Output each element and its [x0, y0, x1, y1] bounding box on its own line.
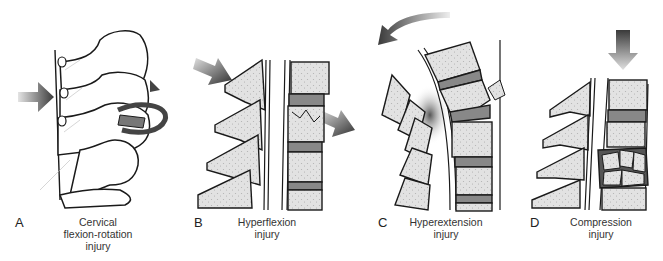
spinal-injury-diagram: A Cervical flexion-rotation injury B Hyp… [0, 0, 663, 261]
panel-b-caption: Hyperflexion injury [225, 216, 309, 240]
curved-force-arrow-icon [378, 12, 450, 45]
panel-d-letter: D [530, 216, 539, 229]
panel-b-illustration [193, 58, 355, 210]
panel-c-illustration [378, 12, 505, 211]
panel-a-illustration [18, 31, 166, 208]
force-arrow-icon [18, 82, 54, 112]
panel-a-letter: A [15, 216, 24, 229]
panel-c-caption: Hyperextension injury [404, 216, 488, 240]
panel-b-letter: B [194, 216, 203, 229]
panel-d-caption: Compression injury [560, 216, 642, 240]
downward-force-arrow-icon [608, 30, 638, 70]
panel-a-caption: Cervical flexion-rotation injury [50, 216, 146, 252]
force-arrow-icon [193, 58, 232, 85]
panel-d-illustration [532, 30, 648, 210]
panel-c-letter: C [378, 216, 387, 229]
